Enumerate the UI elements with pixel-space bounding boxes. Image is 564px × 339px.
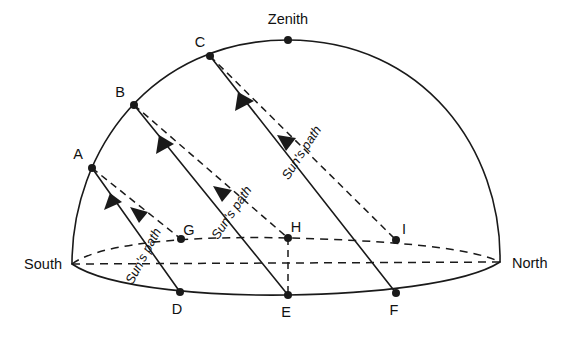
- point-label-B: B: [115, 84, 125, 100]
- point-label-C: C: [195, 34, 205, 50]
- point-dot-H: [284, 234, 292, 242]
- point-label-G: G: [183, 222, 194, 238]
- point-label-A: A: [73, 146, 83, 162]
- point-label-I: I: [402, 221, 406, 237]
- point-dot-B: [130, 101, 138, 109]
- dash-A-G-line: [92, 168, 181, 239]
- dash-B-H-arrowhead: [213, 186, 232, 202]
- point-dot-A: [88, 164, 96, 172]
- point-label-E: E: [281, 304, 291, 320]
- sun-path-labels-group: Sun's path Sun's path Sun's path: [122, 123, 324, 286]
- dashed-continuation-group: [92, 56, 396, 240]
- sun-path-C-F-line: [210, 56, 396, 293]
- point-dot-I: [392, 236, 400, 244]
- dash-A-G-arrowhead: [130, 207, 148, 223]
- point-dot-D: [176, 288, 184, 296]
- dash-C-I-arrowhead: [277, 135, 296, 151]
- sun-path-B-E-line: [134, 105, 288, 295]
- point-dot-F: [392, 289, 400, 297]
- point-label-H: H: [291, 219, 301, 235]
- sun-path-B-E-group: [134, 105, 288, 295]
- point-dot-C: [206, 52, 214, 60]
- point-label-D: D: [172, 301, 182, 317]
- sun-path-label-B-E: Sun's path: [208, 183, 255, 242]
- north-label: North: [512, 255, 547, 271]
- zenith-label: Zenith: [268, 11, 308, 27]
- point-label-F: F: [390, 302, 399, 318]
- point-dot-zenith: [284, 36, 292, 44]
- celestial-sphere-svg: A B C D E F G H I Zenith South North Sun…: [0, 0, 564, 339]
- point-dot-E: [284, 291, 292, 299]
- celestial-dome-diagram: A B C D E F G H I Zenith South North Sun…: [0, 0, 564, 339]
- sun-path-C-F-group: [210, 56, 396, 293]
- sun-path-label-A-D: Sun's path: [122, 225, 164, 286]
- south-label: South: [24, 256, 62, 272]
